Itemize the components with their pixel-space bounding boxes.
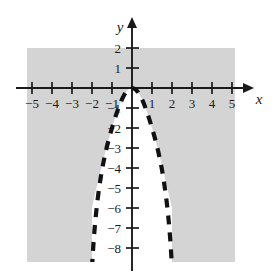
x-tick-label: 5 (229, 96, 236, 111)
y-tick-label: 1 (115, 61, 122, 76)
graph-canvas: −5 −4 −3 −2 −1 1 2 3 4 5 2 1 −1 −2 −3 −4… (0, 0, 276, 279)
y-tick-label: 2 (115, 41, 122, 56)
y-tick-label: −7 (107, 221, 121, 236)
x-tick-label: 1 (149, 96, 156, 111)
x-tick-label: −5 (25, 96, 39, 111)
parabola-graph-figure: −5 −4 −3 −2 −1 1 2 3 4 5 2 1 −1 −2 −3 −4… (0, 0, 276, 279)
x-tick-label: −3 (65, 96, 79, 111)
x-tick-label: 2 (169, 96, 176, 111)
y-tick-label: −4 (107, 161, 121, 176)
y-axis-label: y (115, 19, 124, 35)
x-tick-label: 4 (209, 96, 216, 111)
shaded-region (27, 48, 235, 262)
x-tick-label: 3 (189, 96, 196, 111)
x-axis-label: x (255, 91, 263, 107)
y-tick-label: −6 (107, 201, 121, 216)
x-tick-label: −2 (85, 96, 99, 111)
y-tick-label: −2 (107, 121, 121, 136)
y-tick-label: −5 (107, 181, 121, 196)
x-tick-label: −4 (45, 96, 59, 111)
y-tick-label: −8 (107, 241, 121, 256)
y-tick-label: −1 (107, 101, 121, 116)
